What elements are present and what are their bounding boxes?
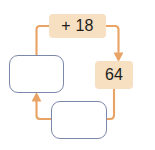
diagram-canvas: + 18 64 (0, 0, 155, 150)
blank-input-box-left[interactable] (9, 55, 64, 93)
operation-node-plus-18[interactable]: + 18 (49, 14, 106, 38)
arrowhead-up-icon (32, 92, 42, 102)
connector-input-bottom-to-input-left (37, 100, 52, 119)
connector-op-to-value (106, 26, 119, 52)
blank-input-box-bottom[interactable] (51, 101, 107, 139)
operation-node-label: + 18 (61, 18, 93, 34)
value-node-label: 64 (105, 67, 123, 83)
connector-value-to-input-bottom (107, 89, 114, 119)
connector-input-left-to-op (37, 26, 50, 55)
value-node-64[interactable]: 64 (95, 61, 133, 89)
